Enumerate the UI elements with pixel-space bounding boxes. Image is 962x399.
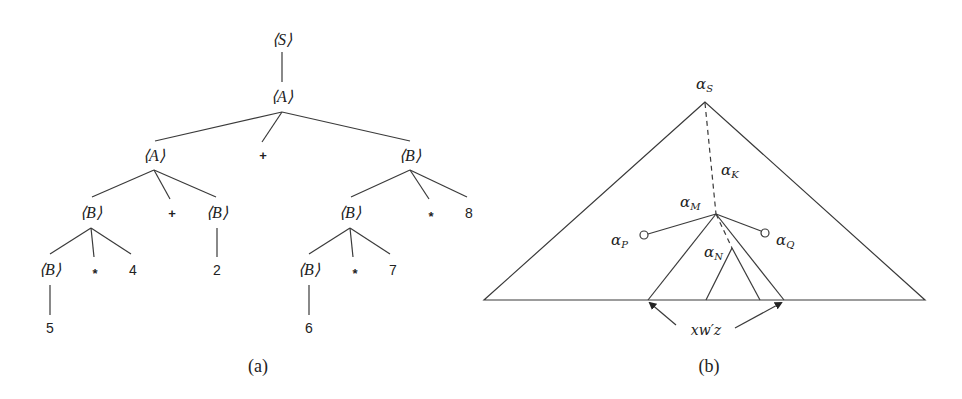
- node-2: 2: [213, 262, 221, 278]
- n-triangle-right: [732, 248, 760, 300]
- label-alpha-M: αM: [680, 193, 701, 212]
- node-8: 8: [465, 205, 473, 221]
- node-7: 7: [389, 262, 397, 278]
- label-string-xwz: xw′z: [691, 322, 722, 338]
- node-S: ⟨S⟩: [272, 31, 293, 48]
- node-A-left: ⟨A⟩: [143, 147, 166, 164]
- node-6: 6: [305, 320, 313, 336]
- caption-b: (b): [699, 356, 720, 377]
- node-B-r3: ⟨B⟩: [339, 204, 362, 221]
- figure-canvas: ⟨S⟩ ⟨A⟩ ⟨A⟩ + ⟨B⟩ ⟨B⟩ + ⟨B⟩ ⟨B⟩ * 8 ⟨B⟩ …: [0, 0, 962, 399]
- label-alpha-K: αK: [721, 161, 739, 180]
- arrow-right: [735, 303, 781, 328]
- node-B-l4: ⟨B⟩: [39, 261, 62, 278]
- label-alpha-Q: αQ: [776, 231, 794, 250]
- label-alpha-S: αS: [696, 75, 713, 94]
- parse-tree: ⟨S⟩ ⟨A⟩ ⟨A⟩ + ⟨B⟩ ⟨B⟩ + ⟨B⟩ ⟨B⟩ * 8 ⟨B⟩ …: [39, 31, 473, 377]
- outer-triangle: [484, 102, 925, 300]
- label-alpha-N: αN: [704, 243, 724, 262]
- caption-a: (a): [248, 356, 268, 377]
- tree-edges: [50, 52, 467, 315]
- derivation-triangle: αS αK αM αP αQ αN xw′z (b): [484, 75, 925, 377]
- node-Q-circle: [761, 229, 769, 237]
- node-A-root: ⟨A⟩: [271, 88, 294, 105]
- dashed-path-S-M: [705, 103, 716, 214]
- node-B-l3-left: ⟨B⟩: [80, 204, 103, 221]
- node-P-circle: [640, 231, 648, 239]
- node-B-l3-mid: ⟨B⟩: [206, 204, 229, 221]
- node-B-right: ⟨B⟩: [399, 147, 422, 164]
- label-alpha-P: αP: [611, 231, 628, 250]
- branch-to-P: [648, 214, 716, 234]
- node-plus-top: +: [259, 148, 267, 163]
- arrow-left: [650, 303, 676, 325]
- node-B-r4: ⟨B⟩: [298, 261, 321, 278]
- node-plus-l3: +: [168, 206, 176, 221]
- node-star-r3: *: [428, 209, 434, 224]
- node-5: 5: [46, 320, 54, 336]
- node-star-r4: *: [352, 266, 358, 281]
- node-star-l4: *: [92, 266, 98, 281]
- node-4: 4: [129, 262, 137, 278]
